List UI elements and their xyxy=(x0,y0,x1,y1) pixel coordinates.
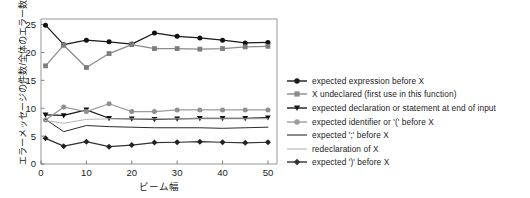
marker-circle xyxy=(220,38,225,43)
legend-item-label: expected identifier or '(' before X xyxy=(312,116,434,128)
marker-square xyxy=(175,46,180,51)
marker-diamond xyxy=(83,139,89,145)
marker-circle xyxy=(61,105,66,110)
marker-diamond xyxy=(174,139,180,145)
chart-legend: expected expression before XX undeclared… xyxy=(286,74,530,169)
marker-circle xyxy=(152,109,157,114)
marker-diamond xyxy=(197,139,203,145)
legend-dot xyxy=(294,78,299,83)
marker-square xyxy=(84,65,89,70)
legend-item[interactable]: expected ')' before X xyxy=(286,156,530,170)
marker-circle xyxy=(84,38,89,43)
legend-marker-none-icon xyxy=(286,143,308,155)
legend-item[interactable]: X undeclared (first use in this function… xyxy=(286,88,530,102)
series-1 xyxy=(43,42,270,70)
legend-marker-square-icon xyxy=(286,88,308,100)
legend-dot xyxy=(294,159,300,165)
marker-diamond xyxy=(265,139,271,145)
legend-item[interactable]: expected ';' before X xyxy=(286,128,530,142)
legend-item[interactable]: redeclaration of X xyxy=(286,142,530,156)
x-tick-label: 10 xyxy=(81,167,92,178)
marker-circle xyxy=(175,107,180,112)
legend-item[interactable]: expected expression before X xyxy=(286,74,530,88)
x-tick-label: 0 xyxy=(38,167,43,178)
legend-dot xyxy=(294,92,299,97)
y-tick-label: 0 xyxy=(31,158,36,169)
marker-circle xyxy=(107,101,112,106)
legend-marker-circle-icon xyxy=(286,75,308,87)
marker-circle xyxy=(220,107,225,112)
marker-square xyxy=(152,46,157,51)
marker-diamond xyxy=(106,144,112,150)
marker-square xyxy=(61,43,66,48)
chart-figure: 010203040500510152025 ビーム幅 エラーメッセージの件数/全… xyxy=(0,0,530,198)
marker-diamond xyxy=(220,139,226,145)
series-4 xyxy=(46,119,268,131)
legend-item-label: X undeclared (first use in this function… xyxy=(312,88,457,100)
marker-square xyxy=(266,44,271,49)
legend-item-label: expected ')' before X xyxy=(312,156,389,168)
x-tick-label: 30 xyxy=(172,167,183,178)
x-axis-title-text: ビーム幅 xyxy=(139,181,179,192)
marker-circle xyxy=(243,107,248,112)
marker-diamond xyxy=(242,140,248,146)
legend-marker-diamond-icon xyxy=(286,156,308,168)
series-line xyxy=(46,119,268,131)
marker-circle xyxy=(107,39,112,44)
marker-square xyxy=(107,51,112,56)
legend-marker-triangle-down-icon xyxy=(286,102,308,114)
legend-marker-none-icon xyxy=(286,129,308,141)
marker-circle xyxy=(84,109,89,114)
marker-diamond xyxy=(151,140,157,146)
legend-item-label: redeclaration of X xyxy=(312,143,379,155)
x-axis-title: ビーム幅 xyxy=(139,181,179,192)
y-tick-label: 5 xyxy=(31,131,36,142)
marker-square xyxy=(220,46,225,51)
y-axis-title: エラーメッセージの件数/全体のエラー数 (%) xyxy=(16,0,29,165)
marker-circle xyxy=(265,107,270,112)
marker-square xyxy=(243,44,248,49)
marker-circle xyxy=(197,35,202,40)
legend-item-label: expected declaration or statement at end… xyxy=(312,102,496,114)
legend-item-label: expected expression before X xyxy=(312,75,424,87)
marker-square xyxy=(197,47,202,52)
legend-item-label: expected ';' before X xyxy=(312,129,389,141)
marker-circle xyxy=(197,107,202,112)
x-tick-label: 50 xyxy=(263,167,274,178)
marker-circle xyxy=(43,23,48,28)
marker-square xyxy=(43,63,48,68)
legend-marker-circle-icon xyxy=(286,116,308,128)
marker-square xyxy=(129,42,134,47)
series-0 xyxy=(43,23,270,48)
marker-diamond xyxy=(61,143,67,149)
x-tick-label: 40 xyxy=(217,167,228,178)
marker-circle xyxy=(152,30,157,35)
marker-diamond xyxy=(129,142,135,148)
x-tick-label: 20 xyxy=(126,167,137,178)
legend-dot xyxy=(294,119,299,124)
marker-circle xyxy=(175,34,180,39)
series-line xyxy=(46,25,268,45)
legend-item[interactable]: expected declaration or statement at end… xyxy=(286,101,530,115)
legend-item[interactable]: expected identifier or '(' before X xyxy=(286,115,530,129)
series-6 xyxy=(43,135,271,149)
data-series-group xyxy=(43,23,271,150)
marker-circle xyxy=(129,109,134,114)
